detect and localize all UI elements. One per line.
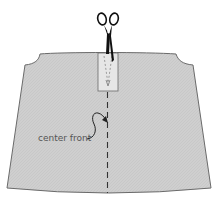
skirt-pattern-diagram: center front — [0, 0, 220, 202]
center-front-label: center front — [38, 133, 92, 143]
